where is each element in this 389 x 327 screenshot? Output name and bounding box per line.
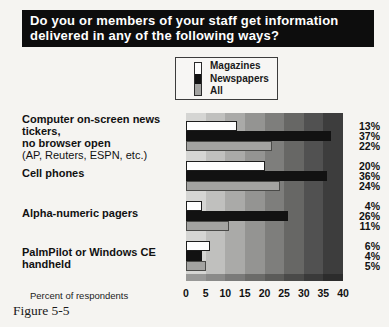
category-label-line: Cell phones [22,167,184,179]
bar-all-group4 [186,261,206,271]
bar-magazines-group2 [186,161,265,171]
legend-swatch-newspapers [195,74,201,85]
plot-floor-edge [186,274,343,281]
category-label-line: Computer on-screen news tickers, [22,113,184,137]
x-tick-label-40: 40 [337,287,349,299]
category-label-line: no browser open [22,137,184,149]
x-tick-label-20: 20 [259,287,271,299]
bar-all-group3 [186,221,229,231]
category-label-group4: PalmPilot or Windows CEhandheld [22,246,184,270]
x-tick-label-15: 15 [239,287,251,299]
value-label-all-group3: 11% [346,221,380,231]
legend-label-newspapers: Newspapers [210,73,269,86]
figure-title-bar: Do you or members of your staff get info… [22,10,374,47]
x-tick-label-5: 5 [203,287,209,299]
x-tick-label-30: 30 [298,287,310,299]
value-label-all-group1: 22% [346,141,380,151]
figure-title-line1: Do you or members of your staff get info… [30,13,374,28]
category-label-group1: Computer on-screen news tickers,no brows… [22,113,184,161]
category-label-note: (AP, Reuters, ESPN, etc.) [22,149,184,161]
category-label-group3: Alpha-numeric pagers [22,207,184,219]
legend-labels: MagazinesNewspapersAll [210,60,269,98]
x-axis-title: Percent of respondents [30,290,128,301]
bar-newspapers-group4 [186,251,202,261]
bar-newspapers-group2 [186,171,327,181]
figure-caption: Figure 5-5 [13,303,70,319]
category-label-line: Alpha-numeric pagers [22,207,184,219]
bar-all-group2 [186,181,280,191]
value-label-all-group4: 5% [346,261,380,271]
floor-band [206,274,226,281]
legend-label-magazines: Magazines [210,60,269,73]
legend-swatch-all [195,84,201,95]
bar-magazines-group3 [186,201,202,211]
floor-band [245,274,265,281]
legend: MagazinesNewspapersAll [175,57,278,100]
x-tick-label-0: 0 [183,287,189,299]
x-tick-label-10: 10 [219,287,231,299]
category-label-group2: Cell phones [22,167,184,179]
figure-page: Do you or members of your staff get info… [0,0,389,327]
bar-all-group1 [186,141,272,151]
legend-swatch-magazines [195,63,201,74]
figure-title-line2: delivered in any of the following ways? [30,28,374,43]
bar-magazines-group4 [186,241,210,251]
value-label-all-group2: 24% [346,181,380,191]
category-label-line: PalmPilot or Windows CE [22,246,184,258]
bar-magazines-group1 [186,121,237,131]
bar-newspapers-group3 [186,211,288,221]
floor-band [323,274,343,281]
legend-label-all: All [210,85,269,98]
x-tick-label-35: 35 [318,287,330,299]
x-tick-label-25: 25 [278,287,290,299]
floor-band [225,274,245,281]
bar-newspapers-group1 [186,131,331,141]
legend-swatch [194,62,202,96]
floor-band [284,274,304,281]
category-label-line: handheld [22,258,184,270]
floor-band [304,274,324,281]
floor-band [186,274,206,281]
floor-band [265,274,285,281]
